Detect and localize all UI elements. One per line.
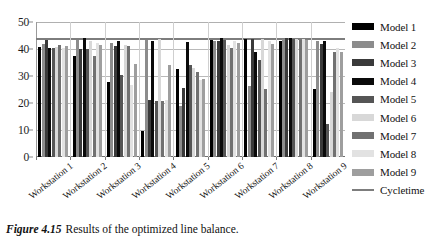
legend-color-swatch xyxy=(352,78,374,85)
legend-color-swatch xyxy=(352,132,374,139)
figure-container: 01020304050 Workstation 1Workstation 2Wo… xyxy=(0,0,438,245)
bar xyxy=(237,43,240,157)
legend-item: Model 1 xyxy=(352,18,438,35)
bar-group xyxy=(311,22,345,157)
chart-legend: Model 1Model 2Model 3Model 4Model 5Model… xyxy=(352,18,438,203)
y-axis-tick-mark xyxy=(29,76,33,77)
legend-item: Model 4 xyxy=(352,73,438,90)
bar xyxy=(134,64,137,157)
legend-color-swatch xyxy=(352,169,374,176)
figure-number: Figure 4.15 xyxy=(6,223,62,235)
bar xyxy=(271,44,274,157)
bar-group xyxy=(36,22,70,157)
legend-item: Model 9 xyxy=(352,164,438,181)
legend-item: Model 8 xyxy=(352,145,438,162)
y-axis-tick-label: 50 xyxy=(18,16,29,28)
legend-color-swatch xyxy=(352,96,374,103)
group-separator xyxy=(311,22,312,157)
legend-item: Model 2 xyxy=(352,36,438,53)
legend-label: Model 4 xyxy=(380,75,416,87)
group-separator xyxy=(242,22,243,157)
bar-group xyxy=(276,22,310,157)
y-axis-tick-label: 10 xyxy=(18,124,29,136)
bar-group xyxy=(105,22,139,157)
y-axis-tick-mark xyxy=(29,22,33,23)
bar-group xyxy=(208,22,242,157)
legend-label: Model 9 xyxy=(380,166,416,178)
legend-color-swatch xyxy=(352,41,374,48)
legend-label: Cycletime xyxy=(380,184,424,196)
figure-caption-text: Results of the optimized line balance. xyxy=(66,223,239,235)
legend-color-swatch xyxy=(352,150,374,157)
legend-item: Model 7 xyxy=(352,127,438,144)
legend-label: Model 7 xyxy=(380,130,416,142)
y-axis-tick-label: 30 xyxy=(18,70,29,82)
group-separator xyxy=(173,22,174,157)
legend-color-swatch xyxy=(352,114,374,121)
legend-label: Model 1 xyxy=(380,21,416,33)
y-axis-tick-mark xyxy=(29,130,33,131)
x-axis-labels: Workstation 1Workstation 2Workstation 3W… xyxy=(36,158,345,212)
y-axis-tick-mark xyxy=(29,157,33,158)
figure-caption: Figure 4.15Results of the optimized line… xyxy=(6,222,426,236)
bar xyxy=(168,65,171,157)
legend-label: Model 5 xyxy=(380,93,416,105)
bar xyxy=(99,45,102,157)
legend-color-swatch xyxy=(352,23,374,30)
y-axis-tick-label: 20 xyxy=(18,97,29,109)
bar-group xyxy=(173,22,207,157)
group-separator xyxy=(139,22,140,157)
bar xyxy=(202,79,205,157)
legend-label: Model 6 xyxy=(380,112,416,124)
bar xyxy=(340,52,343,157)
legend-item: Model 5 xyxy=(352,91,438,108)
y-axis-tick-label: 40 xyxy=(18,43,29,55)
group-separator xyxy=(276,22,277,157)
y-axis-tick-mark xyxy=(29,49,33,50)
bar-group xyxy=(70,22,104,157)
bar xyxy=(305,40,308,157)
group-separator xyxy=(70,22,71,157)
legend-label: Model 2 xyxy=(380,39,416,51)
bar xyxy=(65,46,68,157)
legend-line-swatch xyxy=(352,189,374,191)
legend-item: Model 6 xyxy=(352,109,438,126)
bar-group xyxy=(139,22,173,157)
legend-item: Model 3 xyxy=(352,54,438,71)
chart-area: 01020304050 Workstation 1Workstation 2Wo… xyxy=(0,0,348,212)
y-axis: 01020304050 xyxy=(0,22,33,157)
group-separator xyxy=(105,22,106,157)
legend-label: Model 3 xyxy=(380,57,416,69)
legend-item: Cycletime xyxy=(352,182,438,199)
legend-color-swatch xyxy=(352,59,374,66)
group-separator xyxy=(208,22,209,157)
bar-group xyxy=(242,22,276,157)
bars-layer xyxy=(36,22,345,157)
y-axis-tick-mark xyxy=(29,103,33,104)
legend-label: Model 8 xyxy=(380,148,416,160)
